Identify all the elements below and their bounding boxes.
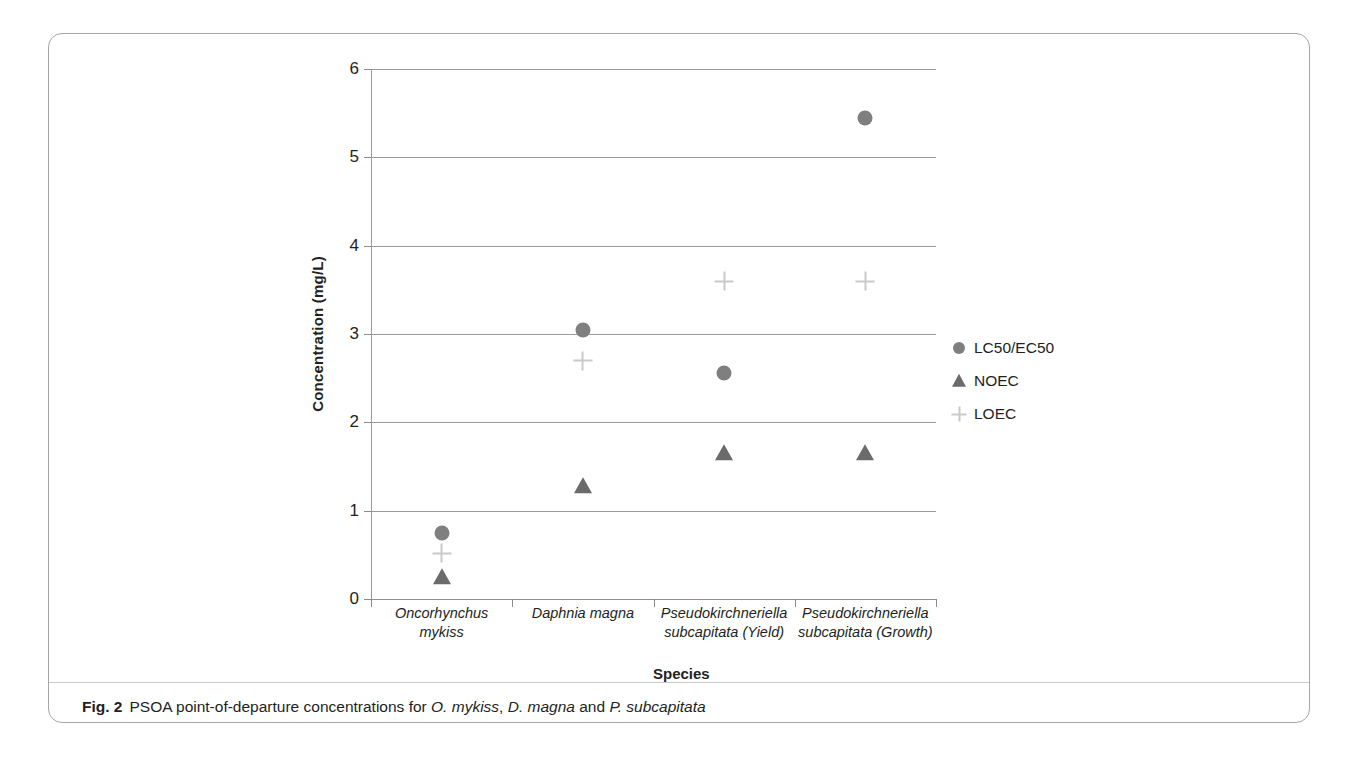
x-axis-tick bbox=[936, 599, 937, 607]
y-axis-tick-label: 6 bbox=[350, 59, 359, 79]
y-axis-tick-label: 2 bbox=[350, 412, 359, 432]
data-point-triangle bbox=[574, 477, 592, 493]
chart-legend: LC50/EC50NOECLOEC bbox=[951, 339, 1054, 423]
plot-area: 0123456 bbox=[371, 69, 936, 599]
y-axis-tick-label: 1 bbox=[350, 501, 359, 521]
y-axis-tick bbox=[364, 157, 371, 158]
data-point-triangle bbox=[856, 444, 874, 460]
caption-species-2: D. magna bbox=[508, 698, 575, 715]
caption-species-3: P. subcapitata bbox=[609, 698, 705, 715]
y-axis-tick-label: 0 bbox=[350, 589, 359, 609]
chart-area: Concentration (mg/L) 0123456 Oncorhynchu… bbox=[49, 34, 1309, 674]
figure-card: Concentration (mg/L) 0123456 Oncorhynchu… bbox=[48, 33, 1310, 723]
y-axis-tick bbox=[364, 511, 371, 512]
legend-label: LOEC bbox=[974, 405, 1016, 423]
y-axis-tick bbox=[364, 334, 371, 335]
data-point-triangle bbox=[433, 568, 451, 584]
y-axis-tick bbox=[364, 246, 371, 247]
data-point-plus bbox=[432, 544, 451, 563]
data-point-plus bbox=[856, 272, 875, 291]
data-point-plus bbox=[715, 272, 734, 291]
legend-item: NOEC bbox=[951, 372, 1054, 390]
data-point-circle bbox=[717, 365, 732, 380]
legend-swatch-glyph bbox=[952, 374, 966, 387]
legend-label: NOEC bbox=[974, 372, 1019, 390]
legend-label: LC50/EC50 bbox=[974, 339, 1054, 357]
y-axis-tick-label: 5 bbox=[350, 147, 359, 167]
x-axis-category-label: Oncorhynchus mykiss bbox=[371, 604, 512, 642]
y-axis-tick bbox=[364, 422, 371, 423]
caption-divider bbox=[49, 682, 1309, 683]
legend-marker-plus bbox=[951, 406, 967, 422]
y-axis-tick bbox=[364, 69, 371, 70]
x-axis-category-label: Pseudokirchneriella subcapitata (Yield) bbox=[654, 604, 795, 642]
caption-text-3: and bbox=[575, 698, 609, 715]
y-axis-tick-label: 3 bbox=[350, 324, 359, 344]
gridline bbox=[371, 422, 936, 423]
legend-swatch-glyph bbox=[953, 342, 965, 354]
data-point-circle bbox=[858, 110, 873, 125]
caption-text-2: , bbox=[499, 698, 508, 715]
gridline bbox=[371, 511, 936, 512]
gridline bbox=[371, 157, 936, 158]
data-point-circle bbox=[434, 525, 449, 540]
x-axis-category-labels: Oncorhynchus mykissDaphnia magnaPseudoki… bbox=[371, 604, 936, 642]
x-axis-category-label: Daphnia magna bbox=[512, 604, 653, 642]
y-axis-tick-label: 4 bbox=[350, 236, 359, 256]
figure-caption: Fig. 2PSOA point-of-departure concentrat… bbox=[82, 696, 1285, 718]
legend-swatch-glyph bbox=[952, 407, 967, 422]
legend-item: LC50/EC50 bbox=[951, 339, 1054, 357]
x-axis-title: Species bbox=[653, 665, 710, 682]
legend-marker-triangle bbox=[951, 373, 967, 389]
gridline bbox=[371, 246, 936, 247]
gridline bbox=[371, 334, 936, 335]
legend-marker-circle bbox=[951, 340, 967, 356]
y-axis-title: Concentration (mg/L) bbox=[309, 256, 326, 412]
data-point-triangle bbox=[715, 444, 733, 460]
x-axis-category-label: Pseudokirchneriella subcapitata (Growth) bbox=[795, 604, 936, 642]
gridline bbox=[371, 69, 936, 70]
caption-text-1: PSOA point-of-departure concentrations f… bbox=[129, 698, 431, 715]
y-axis-tick bbox=[364, 599, 371, 600]
legend-item: LOEC bbox=[951, 405, 1054, 423]
data-point-plus bbox=[573, 351, 592, 370]
caption-figure-number: Fig. 2 bbox=[82, 698, 122, 715]
data-point-circle bbox=[575, 322, 590, 337]
caption-species-1: O. mykiss bbox=[431, 698, 499, 715]
